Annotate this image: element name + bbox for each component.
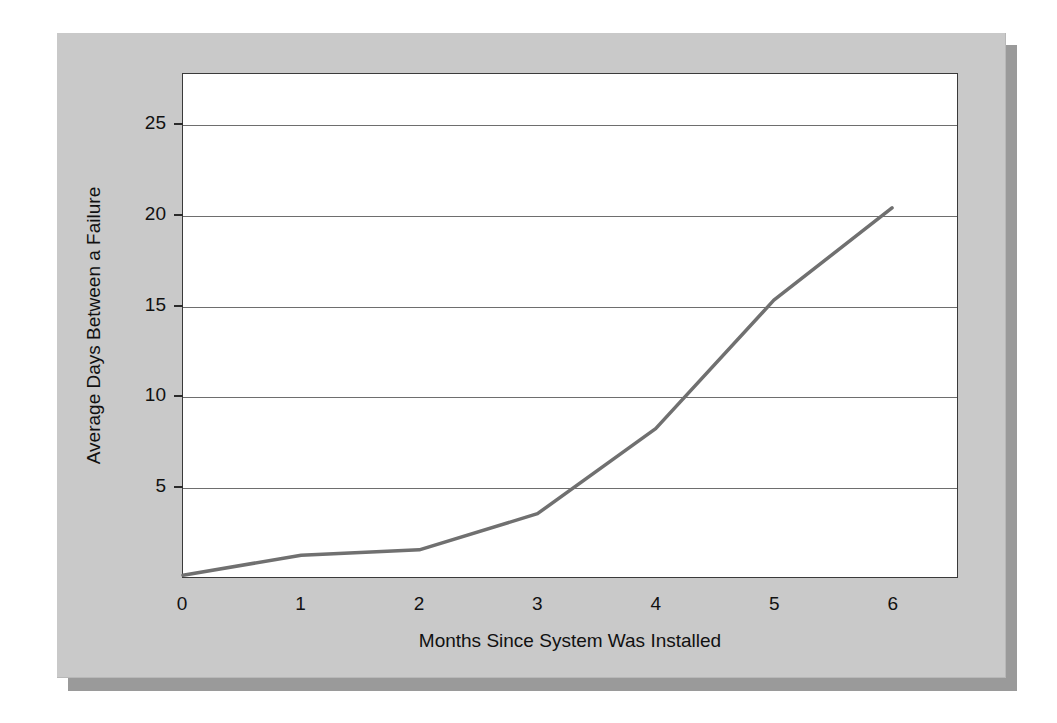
x-tick-label-4: 4 [626, 593, 686, 615]
x-tick-label-2: 2 [389, 593, 449, 615]
y-tick-label-25: 25 [120, 112, 166, 134]
y-tick-mark-10 [174, 395, 183, 397]
x-axis-title: Months Since System Was Installed [182, 630, 958, 652]
x-tick-label-6: 6 [863, 593, 923, 615]
x-tick-label-1: 1 [270, 593, 330, 615]
plot-inner [183, 74, 957, 577]
y-tick-mark-15 [174, 305, 183, 307]
x-tick-label-3: 3 [507, 593, 567, 615]
series-line-0 [183, 208, 892, 575]
y-tick-label-5: 5 [120, 475, 166, 497]
plot-area [182, 73, 958, 578]
chart-panel: 5101520250 0123456 Months Since System W… [57, 33, 1006, 678]
y-axis-title: Average Days Between a Failure [83, 73, 105, 578]
y-tick-mark-5 [174, 486, 183, 488]
y-tick-label-20: 20 [120, 203, 166, 225]
y-tick-mark-25 [174, 123, 183, 125]
y-tick-mark-20 [174, 214, 183, 216]
chart-figure: 5101520250 0123456 Months Since System W… [0, 0, 1057, 723]
y-tick-label-10: 10 [120, 384, 166, 406]
data-series-layer [183, 74, 957, 577]
y-tick-label-15: 15 [120, 294, 166, 316]
x-tick-label-5: 5 [744, 593, 804, 615]
x-tick-label-0: 0 [152, 593, 212, 615]
